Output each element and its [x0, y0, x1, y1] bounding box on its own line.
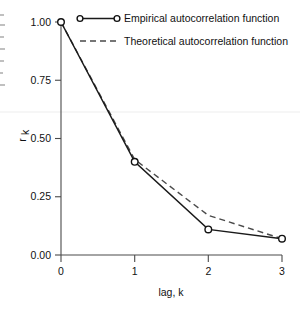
data-point-lag-0	[58, 19, 65, 26]
x-tick-label-3: 3	[279, 265, 285, 277]
x-tick-label-0: 0	[58, 265, 64, 277]
y-tick-label-2: 0.50	[31, 132, 52, 144]
y-axis-title-main: r	[16, 138, 28, 142]
legend-marker-empirical-end	[114, 16, 120, 22]
data-point-lag-1	[131, 159, 138, 166]
legend-marker-empirical-start	[77, 16, 83, 22]
legend-label-empirical: Empirical autocorrelation function	[124, 12, 279, 24]
x-axis-title: lag, k	[158, 286, 184, 298]
y-axis-title-subscript: k	[19, 129, 31, 135]
legend-label-theoretical: Theoretical autocorrelation function	[124, 35, 288, 47]
data-point-lag-3	[279, 235, 286, 242]
y-tick-label-1: 0.25	[31, 190, 52, 202]
autocorrelation-chart: 0.00 0.25 0.50 0.75 1.00 0 1 2 3 lag, k …	[0, 0, 300, 309]
x-tick-label-1: 1	[132, 265, 138, 277]
data-point-lag-2	[205, 226, 212, 233]
y-tick-label-3: 0.75	[31, 74, 52, 86]
x-tick-label-2: 2	[205, 265, 211, 277]
y-tick-label-4: 1.00	[31, 16, 52, 28]
chart-canvas: 0.00 0.25 0.50 0.75 1.00 0 1 2 3 lag, k …	[0, 0, 300, 309]
y-tick-label-0: 0.00	[31, 249, 52, 261]
